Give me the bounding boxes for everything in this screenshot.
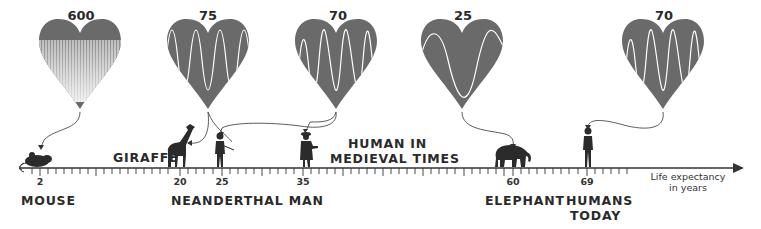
label-neanderthal-man: NEANDERTHAL MAN [171, 193, 324, 208]
heart-icon-mouse [38, 19, 122, 109]
label-mouse: MOUSE [21, 193, 76, 208]
heart-rate-giraffe: 75 [199, 8, 217, 23]
heart-icon-neanderthal-medieval [295, 19, 377, 109]
heart-icon-giraffe [166, 19, 250, 109]
diagram-graphics [0, 0, 761, 229]
axis-ticks [32, 168, 627, 176]
axis-caption-line-1: Life expectancy [648, 171, 728, 182]
heart-icon-humans-today [622, 19, 704, 109]
label-elephant: ELEPHANT [485, 193, 565, 208]
human-today-icon [583, 128, 593, 168]
medieval-human-icon [300, 132, 318, 167]
tick-label-60: 60 [506, 176, 519, 187]
arrow-to-medieval [306, 112, 336, 131]
axis-caption: Life expectancy in years [648, 171, 728, 193]
label-humans: HUMANS [566, 193, 633, 208]
neanderthal-man-icon [215, 133, 234, 168]
heart-rate-elephant: 25 [454, 8, 472, 23]
tick-label-69: 69 [580, 176, 593, 187]
tick-label-25: 25 [215, 176, 228, 187]
arrow-to-mouse [41, 112, 80, 147]
arrow-to-elephant [462, 112, 513, 146]
heart-rate-neanderthal-medieval: 70 [329, 8, 347, 23]
label-human-in: HUMAN IN [348, 136, 427, 151]
label-today: TODAY [570, 208, 621, 223]
tick-label-20: 20 [173, 176, 186, 187]
elephant-icon [495, 145, 531, 167]
arrow-to-humans-today [588, 112, 663, 128]
label-medieval-times: MEDIEVAL TIMES [330, 151, 460, 166]
tick-label-35: 35 [296, 176, 309, 187]
label-giraffe: GIRAFFE [113, 150, 178, 165]
axis-arrow-icon [733, 163, 744, 173]
heart-icon-elephant [420, 19, 510, 109]
life-expectancy-heart-rate-diagram: 600 75 70 25 70 2 20 25 35 60 69 MOUSE G… [0, 0, 761, 229]
heart-rate-mouse: 600 [67, 8, 94, 23]
axis-caption-line-2: in years [648, 182, 728, 193]
heart-rate-humans-today: 70 [655, 8, 673, 23]
tick-label-2: 2 [37, 176, 44, 187]
arrow-to-neanderthal-2 [220, 112, 336, 134]
